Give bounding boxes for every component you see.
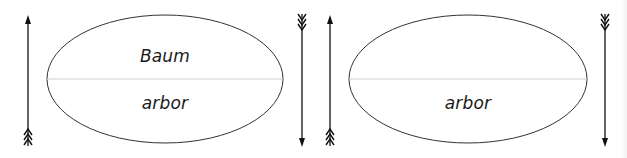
diagram-canvas (0, 0, 627, 158)
sign-ellipse (47, 15, 283, 143)
signifier-label: arbor (142, 93, 189, 113)
page-edge (621, 0, 627, 158)
panel-1 (24, 14, 306, 147)
up-arrow-icon (326, 15, 334, 146)
signified-label: Baum (140, 46, 190, 66)
down-arrow-icon (298, 14, 306, 147)
sign-diagram: Baum arbor arbor (0, 0, 627, 158)
signifier-label: arbor (445, 93, 492, 113)
down-arrow-icon (601, 14, 609, 147)
panel-2 (326, 14, 609, 147)
sign-ellipse (349, 15, 587, 143)
up-arrow-icon (24, 15, 32, 146)
